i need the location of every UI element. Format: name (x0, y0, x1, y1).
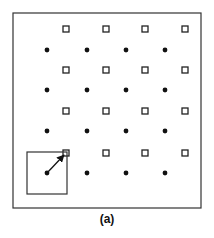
dot-site (45, 129, 50, 134)
dot-site (45, 48, 50, 53)
square-site (103, 26, 109, 32)
square-site (142, 150, 148, 156)
square-site (182, 26, 188, 32)
dot-site (124, 88, 129, 93)
dot-site (163, 171, 168, 176)
arrow-icon (47, 155, 64, 173)
square-site (142, 26, 148, 32)
square-site (63, 108, 69, 114)
square-site (142, 67, 148, 73)
square-site (103, 67, 109, 73)
square-site (182, 67, 188, 73)
figure-caption: (a) (0, 212, 214, 226)
dot-site (163, 129, 168, 134)
dot-site (163, 88, 168, 93)
dot-site (45, 88, 50, 93)
square-site (182, 108, 188, 114)
dot-site (85, 88, 90, 93)
dot-site (85, 48, 90, 53)
dot-site (163, 48, 168, 53)
square-site (63, 26, 69, 32)
dot-site (124, 171, 129, 176)
square-site (103, 108, 109, 114)
square-site (63, 67, 69, 73)
dot-site (85, 129, 90, 134)
square-site (142, 108, 148, 114)
dot-site (85, 171, 90, 176)
lattice-diagram (0, 0, 214, 238)
dot-site (124, 129, 129, 134)
square-site (182, 150, 188, 156)
dot-site (124, 48, 129, 53)
square-site (103, 150, 109, 156)
